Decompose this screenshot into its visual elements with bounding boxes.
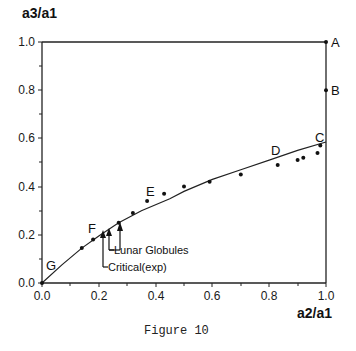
point-label-a: A [331,35,340,50]
svg-text:0.2: 0.2 [18,228,35,242]
point-label-b: B [331,83,340,98]
annotation-lunar-globules: Lunar Globules [114,244,189,256]
data-point [162,192,166,196]
svg-text:0.0: 0.0 [34,289,51,303]
x-axis-title: a2/a1 [297,305,332,321]
svg-text:0.8: 0.8 [18,83,35,97]
svg-text:0.4: 0.4 [148,289,165,303]
annotation-critical-exp: Critical(exp) [108,261,167,273]
data-point [182,185,186,189]
x-axis-tick-labels: 0.0 0.2 0.4 0.6 0.8 1.0 [34,289,335,303]
point-label-d: D [271,143,280,158]
data-point [296,158,300,162]
data-point [276,163,280,167]
svg-text:0.0: 0.0 [18,276,35,290]
data-point [145,199,149,203]
svg-text:1.0: 1.0 [18,35,35,49]
fitted-curve [42,142,326,283]
data-point [239,173,243,177]
svg-text:1.0: 1.0 [318,289,335,303]
figure-caption: Figure 10 [144,324,209,338]
data-point [324,88,328,92]
data-point [324,40,328,44]
svg-text:0.2: 0.2 [91,289,108,303]
svg-text:0.4: 0.4 [18,180,35,194]
point-label-e: E [146,184,155,199]
svg-text:0.6: 0.6 [18,131,35,145]
data-point [80,246,84,250]
svg-text:0.6: 0.6 [204,289,221,303]
point-label-g: G [46,258,56,273]
data-point [131,211,135,215]
data-point [316,151,320,155]
point-labels: A B C D E F G [46,35,340,273]
y-axis-tick-labels: 1.0 0.8 0.6 0.4 0.2 0.0 [18,35,35,290]
point-label-c: C [315,130,324,145]
svg-text:0.8: 0.8 [261,289,278,303]
data-point [301,156,305,160]
data-point [40,281,44,285]
data-point [91,238,95,242]
chart-figure: a3/a1 1.0 0.8 0.6 0.4 0.2 0.0 [0,0,356,351]
data-point [208,180,212,184]
point-label-f: F [88,221,96,236]
y-axis-title: a3/a1 [22,5,57,21]
